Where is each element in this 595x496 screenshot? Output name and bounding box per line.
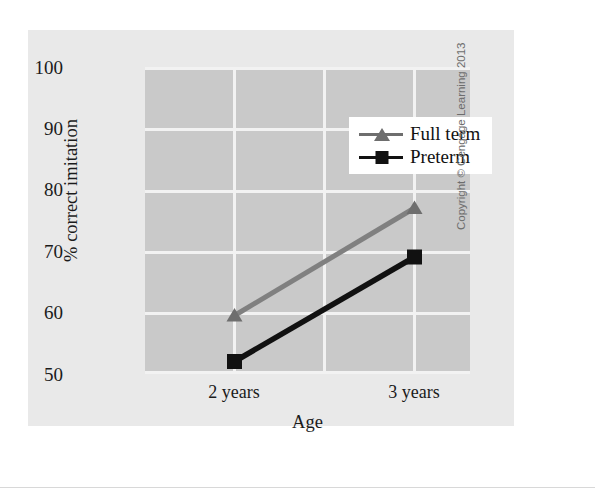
y-tick-70: 70 [3, 242, 63, 261]
x-tick-2-years: 2 years [174, 382, 294, 403]
bottom-divider [0, 487, 595, 488]
figure-panel: 100 90 80 70 60 50 % correct imitation [28, 30, 514, 426]
y-axis-title: % correct imitation [61, 76, 82, 306]
x-tick-3-years: 3 years [354, 382, 474, 403]
caption-clip: less than full-term children do. [0, 0, 595, 9]
x-axis-title: Age [145, 412, 470, 433]
legend-label-full-term: Full term [410, 123, 480, 145]
copyright-notice: Copyright © Cengage Learning 2013 [455, 0, 467, 230]
y-tick-60: 60 [3, 303, 63, 322]
series-full-term [227, 201, 423, 322]
triangle-marker-icon [359, 124, 403, 144]
y-tick-100: 100 [3, 58, 63, 77]
caption-text: less than full-term children do. [44, 0, 232, 3]
y-tick-80: 80 [3, 180, 63, 199]
square-marker-icon [359, 147, 403, 167]
plot-area: Full term Preterm [145, 67, 470, 374]
y-tick-90: 90 [3, 119, 63, 138]
series-preterm [227, 250, 422, 370]
chart-legend: Full term Preterm [349, 117, 492, 174]
series-layer [145, 67, 470, 374]
y-tick-50: 50 [3, 365, 63, 384]
